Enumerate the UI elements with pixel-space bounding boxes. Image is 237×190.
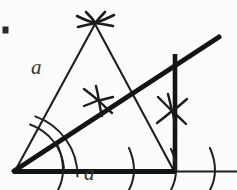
angle-bisector-ray-thick [14, 37, 219, 171]
side-length-label: a [31, 57, 42, 78]
triangle-left-side [15, 24, 95, 171]
geometry-figure: a a [0, 0, 237, 190]
base-tick-arc-4 [210, 148, 215, 190]
base-length-label: a [84, 163, 95, 184]
crop-corner-mark [3, 27, 9, 34]
base-tick-arc-group [58, 146, 215, 190]
base-tick-arc-1 [58, 146, 63, 190]
perpendicular-arc-intersection [157, 94, 187, 128]
construction-drawing [0, 0, 237, 190]
bisector-midpoint-arc-intersection [84, 86, 113, 116]
